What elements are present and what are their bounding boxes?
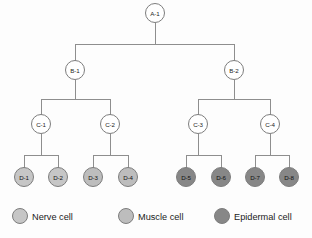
node-d-5[interactable]: D-5 <box>177 168 196 187</box>
lineage-diagram-canvas: A-1B-1B-2C-1C-2C-3C-4D-1D-2D-3D-4D-5D-6D… <box>0 0 312 238</box>
legend-swatch-muscle <box>119 209 134 224</box>
node-label-d-7: D-7 <box>250 174 260 181</box>
node-d-7[interactable]: D-7 <box>246 168 265 187</box>
lineage-tree-svg: A-1B-1B-2C-1C-2C-3C-4D-1D-2D-3D-4D-5D-6D… <box>0 0 312 238</box>
node-d-6[interactable]: D-6 <box>212 168 231 187</box>
node-label-b-1: B-1 <box>70 67 80 74</box>
nodes-layer: A-1B-1B-2C-1C-2C-3C-4D-1D-2D-3D-4D-5D-6D… <box>15 4 299 187</box>
connector-a1-to-b-bus <box>75 23 234 61</box>
legend-label-nerve: Nerve cell <box>32 212 73 222</box>
node-label-d-2: D-2 <box>53 174 63 181</box>
node-label-d-5: D-5 <box>181 174 191 181</box>
node-label-d-1: D-1 <box>19 174 29 181</box>
edges-layer <box>24 23 289 168</box>
node-c-3[interactable]: C-3 <box>189 115 208 134</box>
node-label-d-3: D-3 <box>88 174 98 181</box>
node-label-c-2: C-2 <box>105 121 115 128</box>
node-b-2[interactable]: B-2 <box>225 61 244 80</box>
connector-c2-to-d-bus <box>93 134 128 168</box>
legend-swatch-epidermal <box>215 209 230 224</box>
legend-item-epidermal: Epidermal cell <box>215 209 292 224</box>
connector-c4-to-d-bus <box>255 134 289 168</box>
node-c-4[interactable]: C-4 <box>261 115 280 134</box>
node-b-1[interactable]: B-1 <box>66 61 85 80</box>
legend-item-nerve: Nerve cell <box>13 209 73 224</box>
connector-c1-to-d-bus <box>24 134 58 168</box>
node-a-1[interactable]: A-1 <box>146 4 165 23</box>
node-label-a-1: A-1 <box>150 10 160 17</box>
connector-b2-to-c-bus <box>198 80 270 115</box>
node-d-2[interactable]: D-2 <box>49 168 68 187</box>
node-d-8[interactable]: D-8 <box>280 168 299 187</box>
legend-label-muscle: Muscle cell <box>138 212 183 222</box>
legend-label-epidermal: Epidermal cell <box>234 212 292 222</box>
node-label-c-4: C-4 <box>265 121 275 128</box>
legend-item-muscle: Muscle cell <box>119 209 184 224</box>
node-d-1[interactable]: D-1 <box>15 168 34 187</box>
legend-layer: Nerve cellMuscle cellEpidermal cell <box>13 209 292 224</box>
node-label-c-3: C-3 <box>193 121 203 128</box>
node-d-3[interactable]: D-3 <box>84 168 103 187</box>
node-label-d-8: D-8 <box>284 174 294 181</box>
node-label-b-2: B-2 <box>229 67 239 74</box>
node-label-d-6: D-6 <box>216 174 226 181</box>
legend-swatch-nerve <box>13 209 28 224</box>
connector-b1-to-c-bus <box>41 80 110 115</box>
node-label-c-1: C-1 <box>36 121 46 128</box>
node-d-4[interactable]: D-4 <box>119 168 138 187</box>
node-c-2[interactable]: C-2 <box>101 115 120 134</box>
connector-c3-to-d-bus <box>186 134 221 168</box>
node-c-1[interactable]: C-1 <box>32 115 51 134</box>
node-label-d-4: D-4 <box>123 174 133 181</box>
